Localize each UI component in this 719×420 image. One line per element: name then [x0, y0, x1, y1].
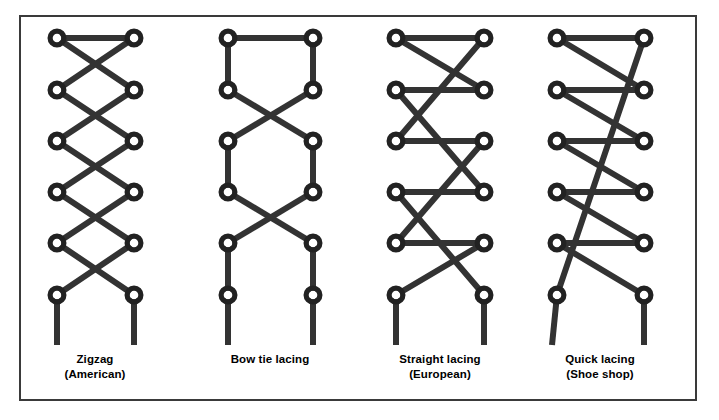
- eyelet: [637, 31, 651, 45]
- eyelet: [477, 288, 491, 302]
- eyelet: [50, 236, 64, 250]
- eyelet: [550, 31, 564, 45]
- eyelet: [50, 83, 64, 97]
- eyelet: [389, 31, 403, 45]
- eyelet: [637, 288, 651, 302]
- eyelet: [50, 31, 64, 45]
- eyelet: [50, 185, 64, 199]
- eyelet: [550, 185, 564, 199]
- eyelet: [389, 236, 403, 250]
- eyelet: [477, 134, 491, 148]
- eyelet: [637, 134, 651, 148]
- eyelets-layer: [50, 31, 651, 302]
- eyelet: [221, 288, 235, 302]
- eyelet: [127, 236, 141, 250]
- eyelet: [477, 185, 491, 199]
- caption-bow-tie-lacing: Bow tie lacing: [190, 352, 350, 367]
- lace-segment-diagonal: [396, 243, 484, 295]
- caption-secondary-label: (American): [15, 367, 175, 382]
- eyelet: [50, 134, 64, 148]
- eyelet: [550, 134, 564, 148]
- eyelet: [50, 288, 64, 302]
- eyelet: [477, 31, 491, 45]
- eyelet: [477, 83, 491, 97]
- eyelet: [221, 236, 235, 250]
- eyelet: [389, 83, 403, 97]
- eyelet: [127, 288, 141, 302]
- lace-segment-diagonal: [557, 38, 644, 295]
- lace-segment-diagonal: [396, 38, 484, 90]
- eyelet: [127, 31, 141, 45]
- eyelet: [306, 288, 320, 302]
- eyelet: [637, 83, 651, 97]
- caption-straight-lacing-european: Straight lacing (European): [360, 352, 520, 382]
- eyelet: [550, 236, 564, 250]
- eyelet: [221, 185, 235, 199]
- eyelet: [389, 134, 403, 148]
- eyelet: [221, 31, 235, 45]
- lace-segment-diagonal: [557, 192, 644, 243]
- eyelet: [306, 236, 320, 250]
- lace-segment-diagonal: [557, 90, 644, 141]
- caption-primary-label: Straight lacing: [360, 352, 520, 367]
- eyelet: [637, 185, 651, 199]
- eyelet: [127, 185, 141, 199]
- caption-quick-lacing-shoe-shop: Quick lacing (Shoe shop): [520, 352, 680, 382]
- eyelet: [550, 83, 564, 97]
- caption-zigzag-american: Zigzag (American): [15, 352, 175, 382]
- eyelet: [127, 83, 141, 97]
- shoe-lacing-figure: Zigzag (American) Bow tie lacing Straigh…: [0, 0, 719, 420]
- eyelet: [306, 185, 320, 199]
- caption-primary-label: Zigzag: [15, 352, 175, 367]
- eyelet: [306, 134, 320, 148]
- eyelet: [221, 134, 235, 148]
- caption-secondary-label: (Shoe shop): [520, 367, 680, 382]
- eyelet: [477, 236, 491, 250]
- caption-primary-label: Bow tie lacing: [190, 352, 350, 367]
- caption-primary-label: Quick lacing: [520, 352, 680, 367]
- eyelet: [127, 134, 141, 148]
- eyelet: [389, 288, 403, 302]
- caption-secondary-label: (European): [360, 367, 520, 382]
- eyelet: [306, 83, 320, 97]
- eyelet: [221, 83, 235, 97]
- eyelet: [389, 185, 403, 199]
- eyelet: [550, 288, 564, 302]
- eyelet: [306, 31, 320, 45]
- eyelet: [637, 236, 651, 250]
